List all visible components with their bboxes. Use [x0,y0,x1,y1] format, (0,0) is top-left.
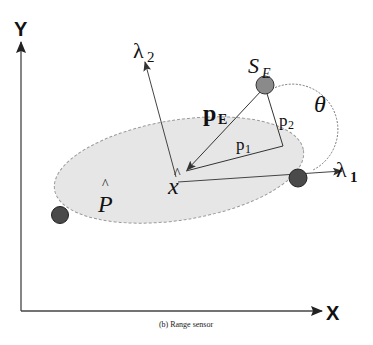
svg-text:S: S [248,53,259,78]
svg-text:E: E [261,66,271,81]
svg-text:2: 2 [147,49,155,65]
sensor-label: S E [248,53,271,81]
pE-label: p E [203,100,227,127]
svg-text:λ: λ [133,38,144,63]
range-sensor-diagram: Y X λ 2 λ 1 S E p E p 2 p 1 θ ^ P ^ x (b… [0,0,373,345]
p2-label: p 2 [279,111,294,132]
svg-text:λ: λ [336,157,347,182]
svg-text:p: p [279,111,288,130]
svg-text:1: 1 [245,142,251,156]
svg-text:P: P [97,191,113,217]
theta-label: θ [314,91,326,117]
y-axis-label: Y [14,18,28,40]
lambda1-label: λ 1 [336,157,358,185]
lambda2-label: λ 2 [133,38,155,65]
right-endpoint [289,169,307,187]
svg-text:2: 2 [288,118,294,132]
svg-text:x: x [167,173,179,199]
figure-caption: (b) Range sensor [159,320,214,329]
svg-text:E: E [218,112,227,127]
svg-text:p: p [203,100,216,126]
svg-text:p: p [236,135,245,154]
x-axis-label: X [326,302,340,324]
left-endpoint [52,207,69,224]
svg-text:^: ^ [102,177,109,192]
svg-text:1: 1 [350,169,358,185]
